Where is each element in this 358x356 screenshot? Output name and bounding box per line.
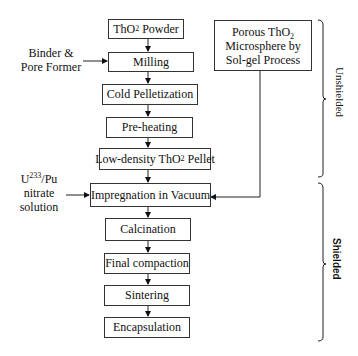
step-encapsulation: Encapsulation (104, 317, 190, 338)
flow-diagram: ThO2 Powder Milling Cold Pelletization P… (0, 0, 358, 356)
text: U233/Pu (14, 172, 64, 186)
step-label: Pre-heating (122, 121, 177, 134)
sol-gel-line2: Microsphere by (225, 39, 301, 53)
step-tho2-powder: ThO2 Powder (108, 19, 184, 39)
text: Binder & (14, 46, 88, 60)
zone-unshielded-label: Unshielded (334, 67, 346, 117)
step-label: Calcination (120, 223, 175, 236)
text: Porous ThO (232, 25, 290, 39)
step-milling: Milling (108, 52, 194, 72)
text: solution (14, 200, 64, 214)
step-label: ThO (113, 23, 135, 36)
step-label: Milling (133, 56, 169, 69)
step-label: Sintering (125, 289, 169, 302)
step-label: Low-density ThO (95, 153, 180, 166)
binder-input-label: Binder & Pore Former (14, 46, 88, 74)
step-sintering: Sintering (104, 285, 190, 306)
sol-gel-line3: Sol-gel Process (226, 53, 300, 67)
step-cold-pelletization: Cold Pelletization (102, 84, 198, 105)
text: /Pu (41, 172, 57, 186)
text: Pore Former (14, 60, 88, 74)
step-low-density-pellet: Low-density ThO2 Pellet (99, 148, 211, 170)
step-impregnation: Impregnation in Vacuum (90, 183, 211, 207)
step-label: Encapsulation (113, 321, 181, 334)
step-label: Pellet (185, 153, 215, 166)
zone-shielded-label: Shielded (331, 238, 342, 280)
step-label: Cold Pelletization (107, 88, 193, 101)
step-pre-heating: Pre-heating (106, 117, 193, 138)
step-label: Final compaction (105, 257, 189, 270)
superscript: 233 (29, 171, 41, 180)
step-final-compaction: Final compaction (104, 253, 190, 274)
nitrate-input-label: U233/Pu nitrate solution (14, 172, 64, 214)
sol-gel-line1: Porous ThO2 (232, 25, 294, 39)
step-calcination: Calcination (105, 218, 191, 241)
text: nitrate (14, 186, 64, 200)
sol-gel-box: Porous ThO2 Microsphere by Sol-gel Proce… (214, 20, 312, 71)
step-label: Impregnation in Vacuum (91, 189, 210, 202)
step-label: Powder (139, 23, 179, 36)
